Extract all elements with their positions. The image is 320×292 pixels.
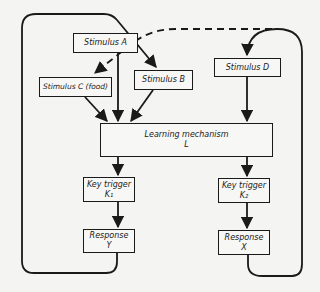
key-trigger-1-box: Key trigger K₁ <box>83 177 135 202</box>
key-trigger-2-label: Key trigger <box>222 181 266 191</box>
stimulus-c-label: Stimulus C (food) <box>43 82 108 92</box>
learning-mechanism-symbol: L <box>184 140 188 150</box>
response-x-box: Response X <box>218 230 270 255</box>
response-x-symbol: X <box>241 243 246 253</box>
key-trigger-2-box: Key trigger K₂ <box>218 178 270 203</box>
learning-mechanism-label: Learning mechanism <box>145 130 229 140</box>
stimulus-a-label: Stimulus A <box>84 38 127 48</box>
stimulus-d-box: Stimulus D <box>214 58 281 77</box>
key-trigger-1-label: Key trigger <box>87 180 131 190</box>
key-trigger-1-symbol: K₁ <box>105 190 113 200</box>
stimulus-c-box: Stimulus C (food) <box>39 77 112 97</box>
stimulus-b-label: Stimulus B <box>142 75 185 85</box>
stimulus-d-label: Stimulus D <box>226 63 269 73</box>
key-trigger-2-symbol: K₂ <box>240 191 248 201</box>
response-x-label: Response <box>225 233 264 243</box>
arrow-b-to-learning <box>131 90 153 121</box>
learning-mechanism-box: Learning mechanism L <box>100 123 273 157</box>
response-y-box: Response Y <box>83 229 135 253</box>
response-y-label: Response <box>90 231 129 241</box>
response-y-symbol: Y <box>107 241 112 251</box>
stimulus-a-box: Stimulus A <box>73 33 138 53</box>
stimulus-b-box: Stimulus B <box>134 70 193 90</box>
arrow-c-to-learning <box>85 97 107 121</box>
